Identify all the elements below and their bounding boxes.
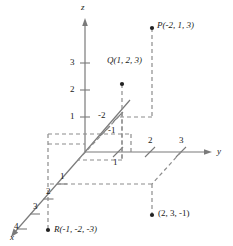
- y-tick-label-1: 1: [113, 158, 118, 167]
- p-construction-lines: [119, 28, 152, 117]
- point-S-dot: [150, 213, 154, 217]
- y-tick-label-neg1: -1: [108, 126, 116, 135]
- x-tick-label-3: 3: [33, 202, 38, 211]
- y-tick-label-neg2: -2: [98, 111, 106, 120]
- z-axis-arrowhead: [82, 18, 88, 26]
- point-Q-label: Q(1, 2, 3): [107, 56, 142, 65]
- point-R-label: R(-1, -2, -3): [54, 225, 97, 234]
- point-S-label: (2, 3, -1): [158, 209, 190, 218]
- x-tick-label-1: 1: [60, 172, 65, 181]
- x-tick-label-2: 2: [46, 187, 51, 196]
- y-axis-label: y: [217, 147, 221, 156]
- tick-marks: [17, 63, 186, 229]
- point-R-dot: [46, 228, 50, 232]
- x-axis-label: x: [10, 233, 14, 242]
- z-tick-label-1: 1: [70, 112, 75, 121]
- z-axis-label: z: [81, 3, 85, 12]
- point-Q-dot: [120, 82, 124, 86]
- z-tick-label-2: 2: [70, 85, 75, 94]
- y-axis-arrowhead: [204, 149, 212, 154]
- y-tick-label-3: 3: [179, 136, 184, 145]
- coordinate-system-figure: z y x 3 2 1 1 2 3 -1 -2 1 2 3 4 P(-2, 1,…: [0, 0, 233, 246]
- point-P-dot: [150, 26, 154, 30]
- z-tick-label-3: 3: [70, 58, 75, 67]
- y-tick-label-2: 2: [148, 136, 153, 145]
- point-P-label: P(-2, 1, 3): [157, 21, 194, 30]
- x-tick-label-4: 4: [14, 222, 19, 231]
